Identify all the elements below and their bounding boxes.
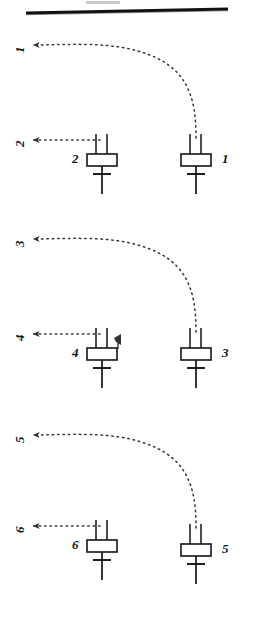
margin-label-1: 1 [13,41,27,53]
device-symbol-2-shape [87,134,117,194]
group-1-arrows [33,44,196,140]
symbol-label-1: 1 [222,152,229,165]
symbol-label-5: 5 [222,542,229,555]
figure-sheet: 1 2 1 2 3 4 3 4 5 6 5 6 [0,0,257,628]
device-symbol-6-shape [87,520,117,580]
margin-label-5: 5 [13,431,27,443]
device-symbol-4-shape [87,328,117,388]
symbol-label-2: 2 [72,152,79,165]
symbol-label-4: 4 [72,346,79,359]
device-symbol-1-shape [181,134,211,194]
margin-label-4: 4 [13,329,27,341]
margin-label-3: 3 [13,235,27,247]
device-symbol-5-shape [181,524,211,584]
figure-drawing [0,0,257,628]
group-3-arrows [33,434,196,528]
group-2-arrows [33,238,196,334]
top-rule-group [26,9,228,15]
margin-label-6: 6 [13,521,27,533]
device-symbol-3-shape [181,328,211,388]
margin-label-2: 2 [13,135,27,147]
symbol-label-6: 6 [72,538,79,551]
extra-arrowhead-mark-4 [114,334,121,349]
symbol-label-3: 3 [222,346,229,359]
